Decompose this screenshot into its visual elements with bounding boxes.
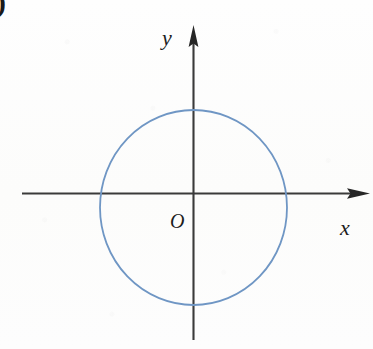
corner-bracket-artifact: ) (0, 0, 6, 17)
figure-canvas: ) y x O (0, 0, 373, 349)
x-axis-label: x (340, 217, 350, 239)
origin-label: O (170, 211, 184, 231)
y-axis (189, 25, 199, 340)
x-axis (22, 188, 370, 199)
coordinate-plane-graphic (0, 0, 373, 349)
y-axis-label: y (162, 27, 172, 49)
